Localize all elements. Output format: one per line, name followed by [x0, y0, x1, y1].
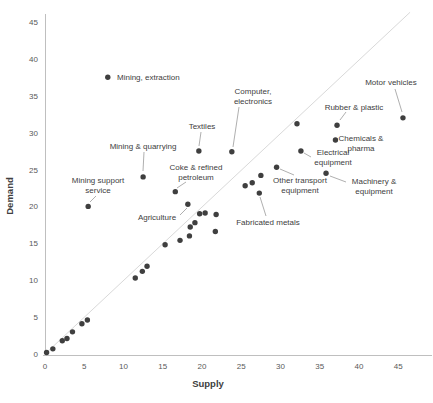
point-label: Other transportequipment [273, 176, 328, 195]
data-point [188, 224, 193, 229]
data-point [257, 190, 262, 195]
y-tick-label: 30 [29, 129, 38, 138]
data-point [192, 220, 197, 225]
point-label: Mining supportservice [72, 176, 125, 195]
x-axis-title: Supply [192, 378, 224, 389]
data-point [242, 183, 247, 188]
leader-line [340, 112, 346, 120]
y-tick-label: 40 [29, 55, 38, 64]
data-point [50, 346, 55, 351]
point-label: Coke & refinedpetroleum [170, 163, 223, 182]
data-point [105, 75, 110, 80]
data-point [196, 148, 201, 153]
x-tick-label: 35 [315, 362, 324, 371]
data-point [274, 165, 279, 170]
data-point [213, 229, 218, 234]
data-point [213, 212, 218, 217]
point-label: Rubber & plastic [325, 103, 384, 112]
y-tick-label: 15 [29, 239, 38, 248]
data-point [400, 115, 405, 120]
supply-demand-scatter-figure: 051015202530354045051015202530354045Mini… [0, 0, 433, 403]
leader-line [143, 152, 144, 171]
data-point [79, 321, 84, 326]
leader-line [304, 153, 311, 157]
data-point [162, 242, 167, 247]
y-tick-label: 25 [29, 166, 38, 175]
leader-line [180, 208, 187, 215]
x-tick-label: 40 [355, 362, 364, 371]
leader-line [233, 107, 239, 147]
x-tick-label: 30 [276, 362, 285, 371]
x-tick-label: 10 [119, 362, 128, 371]
data-point [187, 233, 192, 238]
data-point [250, 180, 255, 185]
data-point [229, 149, 234, 154]
data-point [64, 336, 69, 341]
data-point [44, 350, 49, 355]
point-label: Fabricated metals [236, 218, 300, 227]
y-tick-label: 10 [29, 276, 38, 285]
data-point [140, 269, 145, 274]
leader-line [199, 132, 201, 146]
y-tick-label: 45 [29, 18, 38, 27]
leader-line [330, 176, 346, 182]
x-tick-label: 0 [43, 362, 48, 371]
x-tick-label: 45 [394, 362, 403, 371]
data-point [323, 170, 328, 175]
y-tick-label: 35 [29, 92, 38, 101]
data-point [333, 137, 338, 142]
x-tick-label: 5 [82, 362, 87, 371]
data-point [85, 204, 90, 209]
data-point [298, 148, 303, 153]
x-tick-label: 25 [237, 362, 246, 371]
data-point [70, 329, 75, 334]
data-point [144, 263, 149, 268]
data-point [202, 210, 207, 215]
x-tick-label: 20 [198, 362, 207, 371]
y-axis-title: Demand [4, 177, 15, 214]
point-label: Textiles [189, 122, 216, 131]
data-point [294, 121, 299, 126]
leader-line [395, 89, 402, 112]
y-tick-label: 5 [34, 313, 39, 322]
point-label: Agriculture [138, 213, 177, 222]
data-point [258, 173, 263, 178]
x-tick-label: 15 [158, 362, 167, 371]
data-point [60, 338, 65, 343]
leader-line [90, 196, 96, 202]
data-point [334, 123, 339, 128]
leader-line [280, 169, 294, 175]
data-point [185, 201, 190, 206]
data-point [197, 211, 202, 216]
leader-line [177, 182, 186, 188]
point-label: Motor vehicles [365, 78, 417, 87]
y-tick-label: 0 [34, 350, 39, 359]
y-tick-label: 20 [29, 202, 38, 211]
point-label: Mining, extraction [117, 73, 180, 82]
data-point [85, 317, 90, 322]
plot-area: 051015202530354045051015202530354045Mini… [0, 0, 433, 403]
leader-line [260, 197, 266, 216]
data-point [133, 275, 138, 280]
data-point [177, 238, 182, 243]
data-point [140, 174, 145, 179]
point-label: Computer,electronics [234, 87, 272, 106]
data-point [173, 189, 178, 194]
point-label: Mining & quarrying [110, 142, 177, 151]
point-label: Machinery &equipment [352, 177, 397, 196]
